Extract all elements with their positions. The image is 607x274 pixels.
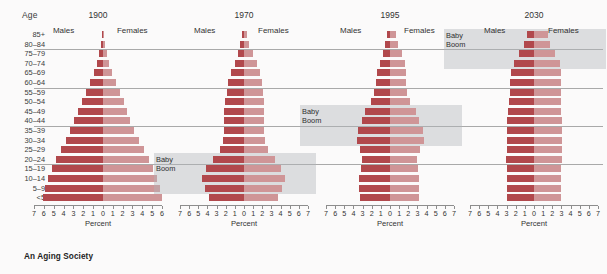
bar-row xyxy=(470,184,598,194)
x-axis-tick-label: 7 xyxy=(468,209,472,218)
bar-row xyxy=(34,174,162,184)
bar-row xyxy=(470,107,598,117)
bar-row xyxy=(470,145,598,155)
x-axis-tick-label: 4 xyxy=(279,209,283,218)
bar-row xyxy=(34,40,162,50)
x-axis-tick-label: 0 xyxy=(242,209,246,218)
bar-row xyxy=(180,126,308,136)
bar-rows xyxy=(470,30,598,203)
bar-row xyxy=(470,193,598,203)
panel-year-title: 2030 xyxy=(470,10,598,20)
female-bar xyxy=(244,41,249,48)
male-bar xyxy=(380,60,390,67)
male-bar xyxy=(519,50,534,57)
bar-row xyxy=(470,88,598,98)
female-bar xyxy=(390,79,406,86)
female-bar xyxy=(390,50,402,57)
male-bar xyxy=(507,146,534,153)
bar-row xyxy=(180,193,308,203)
male-bar xyxy=(61,146,103,153)
male-bar xyxy=(359,175,390,182)
bar-row xyxy=(326,40,454,50)
female-bar xyxy=(534,165,561,172)
x-axis-tick-label: 7 xyxy=(306,209,310,218)
panel-year-title: 1900 xyxy=(34,10,162,20)
male-bar xyxy=(213,156,244,163)
female-bar xyxy=(103,146,144,153)
bar-row xyxy=(180,174,308,184)
female-bar xyxy=(103,156,149,163)
baby-boom-label: Boom xyxy=(446,40,465,49)
bar-rows xyxy=(326,30,454,203)
x-axis-tick-label: 3 xyxy=(269,209,273,218)
bar-row xyxy=(180,88,308,98)
bar-row xyxy=(180,136,308,146)
female-bar xyxy=(534,98,561,105)
male-bar xyxy=(225,98,244,105)
female-bar xyxy=(103,185,160,192)
bar-row xyxy=(180,40,308,50)
male-bar xyxy=(514,60,534,67)
panel-1995: BabyBoom1995MalesFemales765432101234567P… xyxy=(326,0,454,274)
x-axis-tick-label: 2 xyxy=(224,209,228,218)
bar-row xyxy=(326,59,454,69)
x-axis-tick-label: 6 xyxy=(160,209,164,218)
bar-row xyxy=(34,145,162,155)
bar-row xyxy=(470,155,598,165)
x-axis-tick-label: 4 xyxy=(495,209,499,218)
female-bar xyxy=(103,89,120,96)
male-bar xyxy=(224,117,244,124)
female-bar xyxy=(244,165,281,172)
female-bar xyxy=(244,127,264,134)
female-bar xyxy=(103,194,162,201)
male-bar xyxy=(377,69,390,76)
x-axis-tick-label: 2 xyxy=(406,209,410,218)
bar-row xyxy=(470,59,598,69)
male-bar xyxy=(510,89,534,96)
x-axis-tick-label: 4 xyxy=(140,209,144,218)
bar-row xyxy=(326,174,454,184)
male-bar xyxy=(360,146,390,153)
x-axis-tick-label: 3 xyxy=(361,209,365,218)
female-bar xyxy=(534,127,562,134)
panel-year-title: 1970 xyxy=(180,10,308,20)
female-bar xyxy=(103,50,107,57)
male-bar xyxy=(524,41,534,48)
male-bar xyxy=(365,108,390,115)
x-axis-tick-label: 3 xyxy=(130,209,134,218)
bar-row xyxy=(34,88,162,98)
x-axis-tick-label: 0 xyxy=(101,209,105,218)
female-bar xyxy=(244,194,278,201)
female-bar xyxy=(534,60,560,67)
bar-row xyxy=(180,49,308,59)
female-bar xyxy=(103,31,104,38)
bar-row xyxy=(470,164,598,174)
bar-row xyxy=(180,184,308,194)
bar-row xyxy=(326,184,454,194)
bar-row xyxy=(34,78,162,88)
male-bar xyxy=(357,137,390,144)
baby-boom-label: Boom xyxy=(302,116,321,125)
male-bar xyxy=(507,185,534,192)
male-bar xyxy=(227,89,244,96)
female-bar xyxy=(244,117,264,124)
female-bar xyxy=(103,127,135,134)
bar-row xyxy=(326,193,454,203)
female-bar xyxy=(534,146,562,153)
x-axis-tick-label: 7 xyxy=(178,209,182,218)
x-axis-tick-label: 3 xyxy=(559,209,563,218)
male-bar xyxy=(206,165,244,172)
female-bar xyxy=(103,69,112,76)
x-axis-tick-label: 5 xyxy=(52,209,56,218)
bar-row xyxy=(326,145,454,155)
male-bar xyxy=(358,127,390,134)
bar-row xyxy=(326,126,454,136)
x-axis-tick-label: 1 xyxy=(379,209,383,218)
x-axis-tick-label: 2 xyxy=(514,209,518,218)
male-bar xyxy=(507,175,534,182)
population-pyramid-figure: Age 85+80–8475–7970–7465–6960–6455–5950–… xyxy=(0,0,607,274)
x-axis-tick-label: 3 xyxy=(71,209,75,218)
bar-row xyxy=(180,107,308,117)
male-bar xyxy=(383,50,390,57)
female-bar xyxy=(244,60,257,67)
